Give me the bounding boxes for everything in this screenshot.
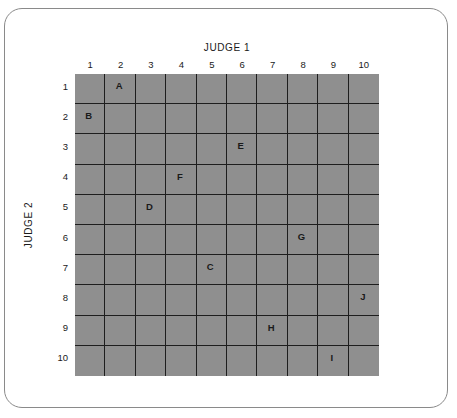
column-label: 2 [105,59,135,73]
grid-cell [197,104,227,134]
grid-cell [166,74,196,104]
grid-cell [75,285,105,315]
grid-cell [318,285,348,315]
grid-cell [166,195,196,225]
grid-cell [136,225,166,255]
grid-cell [257,225,287,255]
grid-cell [227,346,257,376]
grid-cell [318,134,348,164]
grid-cell: H [257,316,287,346]
grid-cell [105,316,135,346]
grid-cell: B [75,104,105,134]
grid-cell [349,104,379,134]
grid-cell [257,74,287,104]
column-label: 3 [136,59,166,73]
grid-cell [136,285,166,315]
column-label: 5 [197,59,227,73]
grid-cell [105,346,135,376]
grid-cell [318,195,348,225]
row-label: 2 [52,101,72,131]
x-axis-title: JUDGE 1 [75,42,379,53]
grid-cell [105,134,135,164]
grid-cell [227,225,257,255]
grid-cell [257,346,287,376]
grid-cell [257,255,287,285]
grid-cell: A [105,74,135,104]
grid-cell [288,195,318,225]
grid-cell [75,225,105,255]
grid-cell: C [197,255,227,285]
grid-cell [349,74,379,104]
grid-cell [105,195,135,225]
grid-cell [105,165,135,195]
grid-cell [349,255,379,285]
grid-cell [197,74,227,104]
grid-cell [257,195,287,225]
item-marker: H [268,322,275,333]
column-label: 4 [166,59,196,73]
grid-cell [257,104,287,134]
grid-cell [349,134,379,164]
grid-cell [318,104,348,134]
grid-cell [136,74,166,104]
item-marker: C [207,261,214,272]
item-marker: A [116,80,123,91]
grid-cell [288,255,318,285]
grid-cell: F [166,165,196,195]
grid-cell: I [318,346,348,376]
row-label: 3 [52,131,72,161]
grid-cell [197,225,227,255]
grid-cell [75,165,105,195]
column-label: 10 [349,59,379,73]
row-label: 1 [52,71,72,101]
grid-cell [166,134,196,164]
grid-cell [257,285,287,315]
grid-cell [349,316,379,346]
grid-cell [318,165,348,195]
grid-cell [136,165,166,195]
grid-cell [75,316,105,346]
row-label: 4 [52,162,72,192]
grid-cell [166,104,196,134]
grid-cell [197,285,227,315]
grid-cell: E [227,134,257,164]
grid-cell [288,165,318,195]
grid-cell: J [349,285,379,315]
grid-cell [349,195,379,225]
grid-cell [75,195,105,225]
grid-cell [166,316,196,346]
row-labels: 1 2 3 4 5 6 7 8 9 10 [52,74,72,376]
row-label: 7 [52,252,72,282]
row-label: 10 [52,343,72,373]
grid-cell [227,195,257,225]
grid-cell [257,134,287,164]
grid-cell [227,74,257,104]
item-marker: D [146,201,153,212]
column-label: 8 [288,59,318,73]
item-marker: I [331,352,334,363]
grid-cell [318,225,348,255]
grid-cell [288,134,318,164]
grid-cell [197,165,227,195]
grid-cell [288,74,318,104]
item-marker: B [85,110,92,121]
grid-cell [349,225,379,255]
column-label: 1 [75,59,105,73]
column-label: 9 [318,59,348,73]
grid-cell [318,316,348,346]
grid-cell [257,165,287,195]
grid-cell [227,285,257,315]
grid-cell: D [136,195,166,225]
item-marker: E [238,140,244,151]
grid-cell [75,134,105,164]
grid-cell [166,346,196,376]
grid-cell [105,225,135,255]
grid-cell [197,316,227,346]
grid-cell [318,255,348,285]
grid-cell [105,255,135,285]
grid-cell [136,104,166,134]
grid-cell [349,165,379,195]
grid-cell [197,346,227,376]
grid-cell [197,134,227,164]
item-marker: F [177,171,183,182]
